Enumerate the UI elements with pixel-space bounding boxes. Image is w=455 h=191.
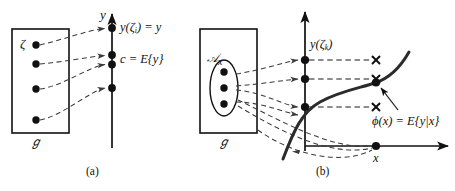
panel-b-value-label: y(ζk) <box>310 38 332 52</box>
panel-a-map-arrow <box>40 65 105 90</box>
panel-b-curve-label-leader <box>381 88 398 110</box>
panel-a-y-axis-label: y <box>100 8 106 21</box>
panel-b-event-dot <box>220 68 227 75</box>
panel-a-value-dot <box>108 51 116 59</box>
panel-b-event-dot <box>220 84 227 91</box>
panel-a-value-label: y(ζi) = y <box>120 21 161 35</box>
panel-a-map-arrow <box>40 56 105 65</box>
panel-b-cross-mark <box>373 57 380 64</box>
panel-a-caption: (a) <box>86 166 99 178</box>
panel-a-value-label-head: y(ζ <box>120 20 135 34</box>
panel-b-value-dot <box>301 56 309 64</box>
panel-b-sample-space-box <box>200 29 257 133</box>
panel-b-map-arrow <box>236 90 298 107</box>
panel-a-value-dot <box>108 24 116 32</box>
panel-b-caption: (b) <box>316 166 329 178</box>
panel-a-map-arrow <box>40 88 105 120</box>
panel-b-curve-point <box>372 78 380 86</box>
panel-b-sample-space-label: ℊ <box>218 136 230 148</box>
panel-b-event-label-head: 𝒜 <box>207 51 218 65</box>
panel-b-curve-label: ϕ(x) = E{y|x} <box>372 115 439 128</box>
panel-b-x-map-arrowhead <box>292 150 300 154</box>
panel-a-sample-space-label: ℊ <box>30 136 42 148</box>
panel-b-value-dot <box>301 103 309 111</box>
panel-a-mean-label: c = E{y} <box>120 53 163 66</box>
panel-a-value-dot <box>108 84 116 92</box>
panel-a-outcome-label: ζ <box>20 37 25 50</box>
panel-b-x-point <box>372 142 380 150</box>
panel-b-map-arrow <box>236 79 298 86</box>
panel-b-x-point-label: x <box>373 152 379 165</box>
panel-b-event-dot <box>220 100 227 107</box>
panel-a-outcome-dot <box>32 85 39 92</box>
panel-b-event-label-sub: x <box>218 56 222 67</box>
panel-b-value-label-head: y(ζ <box>310 37 325 51</box>
panel-b-map-arrow <box>236 60 298 74</box>
panel-a-outcome-dot <box>32 41 39 48</box>
figure-root: y ζ y(ζi) = y c = E{y} ℊ (a) 𝒜x ℊ y(ζk) … <box>0 0 455 191</box>
panel-a-outcome-dot <box>32 116 39 123</box>
panel-b-event-label: 𝒜x <box>207 49 222 67</box>
panel-b-value-dot <box>301 75 309 83</box>
panel-a-value-label-tail: ) = y <box>137 20 161 34</box>
panel-a-value-dot <box>108 61 116 69</box>
panel-a-map-arrow <box>40 29 105 46</box>
panel-a-outcome-dot <box>32 60 39 67</box>
panel-b-cross-mark <box>373 104 380 111</box>
figure-canvas <box>0 0 455 191</box>
panel-b-value-label-tail: ) <box>328 37 332 51</box>
